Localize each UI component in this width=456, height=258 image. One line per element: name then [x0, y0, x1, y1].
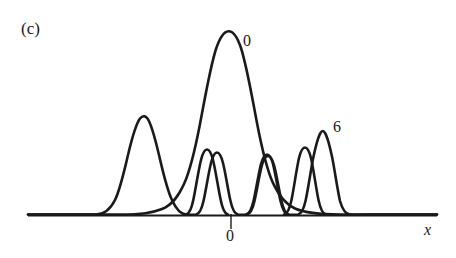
narrow-peak-comb-curve	[28, 116, 437, 215]
peak-label-6: 6	[333, 119, 341, 135]
figure-panel-c: (c) 0 6 0 x	[0, 0, 456, 258]
x-axis-origin-label: 0	[226, 228, 234, 244]
x-axis-label: x	[424, 222, 431, 238]
plot-canvas	[0, 0, 456, 258]
envelope-curve-peak-0	[28, 31, 437, 214]
panel-label: (c)	[21, 20, 40, 37]
peak-label-0: 0	[243, 33, 251, 49]
